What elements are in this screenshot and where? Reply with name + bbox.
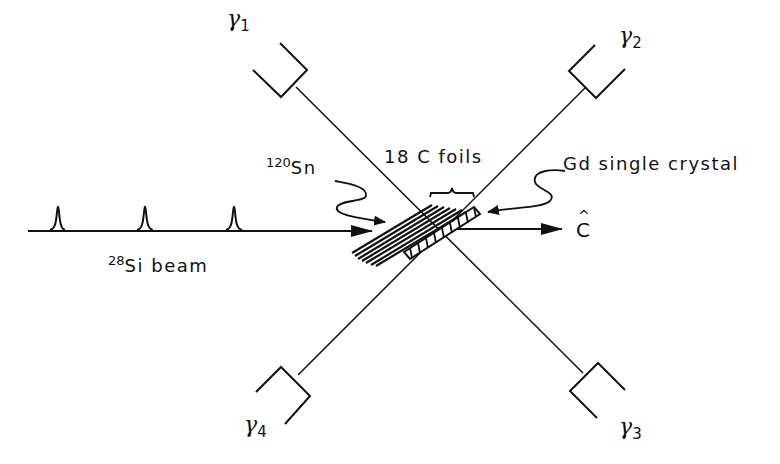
label-gd-crystal: Gd single crystal [563,153,739,174]
foils-brace [430,188,474,197]
beam-pulse-1 [50,207,65,230]
label-gamma-4: γ4 [244,412,267,441]
beam-pulse-3 [226,207,242,230]
detector-gamma-2-shape [569,45,625,98]
label-sn-target: 120Sn [266,155,317,178]
beam-line [28,207,372,231]
label-si-beam: 28Si beam [108,253,208,276]
detector-gamma-3-shape [570,363,625,418]
beam-pulse-2 [137,207,153,230]
sn-leader [335,181,385,222]
gd-leader [488,170,565,212]
diagram-canvas [0,0,780,464]
label-gamma-3: γ3 [619,414,642,443]
label-gamma-2: γ2 [619,23,642,52]
label-gamma-1: γ1 [227,6,250,35]
label-carbon-foils: 18 C foils [384,146,483,167]
label-c-axis: C [576,218,590,242]
